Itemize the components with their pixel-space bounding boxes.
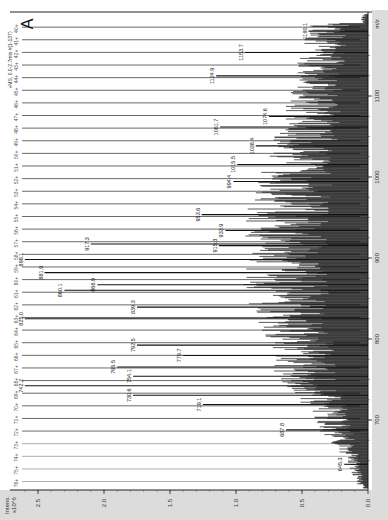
- charge-state-label: 47+: [13, 113, 19, 122]
- mz-tick-label: 1100: [374, 89, 380, 103]
- peak-label: 994.4: [226, 175, 232, 189]
- intensity-tick-label: 0.0: [365, 498, 371, 507]
- trace-title: +MS, 0.0-2.7min #(1-137): [7, 31, 13, 88]
- peak-label: 1074.6: [262, 108, 268, 125]
- peak-label: 1180.1: [302, 23, 308, 39]
- charge-state-label: 49+: [13, 138, 19, 147]
- peak-label: 860.1: [57, 283, 63, 297]
- charge-state-label: 50+: [13, 151, 19, 160]
- mz-tick-label: 900: [374, 252, 380, 263]
- charge-state-label: 72+: [13, 428, 19, 437]
- charge-state-label: 54+: [13, 201, 19, 210]
- charge-state-label: 52+: [13, 176, 19, 185]
- spectrum-envelope: [244, 15, 369, 488]
- peak-label: 730.6: [126, 388, 132, 402]
- charge-state-label: 51+: [13, 163, 19, 172]
- peak-label: 1124.9: [209, 68, 215, 84]
- charge-state-label: 60+: [13, 277, 19, 286]
- panel-letter: A: [19, 18, 36, 29]
- peak-label: 765.5: [110, 360, 116, 374]
- charge-state-label: 76+: [13, 479, 19, 488]
- intensity-axis-title: Intens.: [4, 496, 10, 514]
- charge-state-label: 46+: [13, 100, 19, 109]
- charge-state-label: 66+: [13, 353, 19, 362]
- charge-state-label: 41+: [13, 37, 19, 46]
- mz-tick-label: 700: [374, 414, 380, 425]
- charge-state-label: 73+: [13, 441, 19, 450]
- intensity-tick-label: 1.0: [233, 498, 239, 507]
- peak-label: 792.5: [130, 338, 136, 352]
- peak-label: 933.9: [218, 224, 224, 238]
- peak-label: 881.9: [38, 266, 44, 280]
- charge-state-label: 70+: [13, 403, 19, 412]
- chart-frame: 40+41+42+43+44+45+46+47+48+49+50+51+52+5…: [0, 0, 388, 520]
- charge-state-label: 42+: [13, 50, 19, 59]
- peak-label: 1153.7: [238, 44, 244, 60]
- mz-tick-label: 800: [374, 333, 380, 344]
- mass-spectrum-chart: 40+41+42+43+44+45+46+47+48+49+50+51+52+5…: [0, 0, 388, 520]
- peak-label: 742.2: [18, 379, 24, 393]
- peak-label: 1015.5: [230, 156, 236, 173]
- intensity-axis-exponent: x10^6: [11, 496, 17, 512]
- charge-state-label: 56+: [13, 226, 19, 235]
- peak-label: 719.1: [196, 398, 202, 412]
- charge-state-label: 71+: [13, 416, 19, 425]
- peak-label: 953.6: [195, 208, 201, 222]
- peak-label: 839.3: [130, 300, 136, 314]
- charge-state-label: 53+: [13, 188, 19, 197]
- charge-state-label: 57+: [13, 239, 19, 248]
- intensity-tick-label: 1.5: [167, 498, 173, 507]
- charge-state-label: 43+: [13, 62, 19, 71]
- peak-label: 825.0: [18, 312, 24, 326]
- intensity-tick-label: 2.0: [101, 498, 107, 507]
- charge-state-label: 67+: [13, 365, 19, 374]
- charge-state-label: 75+: [13, 466, 19, 475]
- intensity-tick-label: 2.5: [35, 498, 41, 507]
- charge-state-label: 64+: [13, 327, 19, 336]
- charge-state-label: 45+: [13, 87, 19, 96]
- peak-label: 898.1: [18, 253, 24, 267]
- peak-label: 645.3: [337, 457, 343, 471]
- charge-state-label: 55+: [13, 214, 19, 223]
- charge-state-label: 61+: [13, 289, 19, 298]
- peak-label: 754.1: [126, 369, 132, 383]
- intensity-tick-label: 0.5: [299, 498, 305, 507]
- mz-axis-label: m/z: [374, 19, 380, 29]
- charge-state-label: 44+: [13, 75, 19, 84]
- peak-label: 1061.7: [213, 119, 219, 136]
- peak-label: 687.8: [279, 423, 285, 437]
- charge-state-label: 62+: [13, 302, 19, 311]
- peak-label: 1038.4: [249, 137, 255, 154]
- peak-label: 917.3: [84, 237, 90, 251]
- charge-state-label: 74+: [13, 453, 19, 462]
- charge-state-label: 48+: [13, 125, 19, 134]
- peak-label: 779.7: [176, 349, 182, 363]
- charge-state-label: 65+: [13, 340, 19, 349]
- peak-label: 915.3: [212, 239, 218, 253]
- peak-label: 866.9: [90, 278, 96, 292]
- mz-tick-label: 1000: [374, 170, 380, 184]
